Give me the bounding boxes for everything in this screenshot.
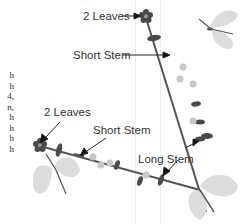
leaf-icon <box>195 120 205 125</box>
label-2-leaves-lower: 2 Leaves <box>44 106 91 118</box>
leaf-icon <box>191 101 202 108</box>
label-short-stem-lower: Short Stem <box>93 124 151 136</box>
label-2-leaves-top: 2 Leaves <box>83 10 130 22</box>
butterfly-icon <box>199 10 238 48</box>
diagram-page: h h 4, n, h h h h <box>0 0 240 224</box>
label-short-stem-top: Short Stem <box>73 49 131 61</box>
butterfly-icon <box>33 154 80 194</box>
flower-garland-illustration <box>0 0 240 224</box>
label-long-stem: Long Stem <box>138 153 194 165</box>
small-flowers <box>177 64 197 125</box>
leaf-icon <box>136 175 144 186</box>
leaf-icon <box>147 34 162 42</box>
